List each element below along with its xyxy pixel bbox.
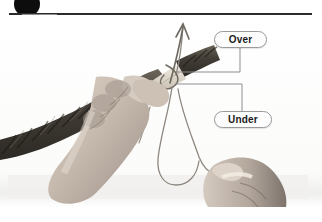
photo-artwork <box>0 15 322 207</box>
instruction-photo <box>0 15 322 207</box>
callout-label-over: Over <box>214 31 267 48</box>
callout-label-under: Under <box>214 111 272 128</box>
step-illustration-page: 3 <box>0 0 322 222</box>
